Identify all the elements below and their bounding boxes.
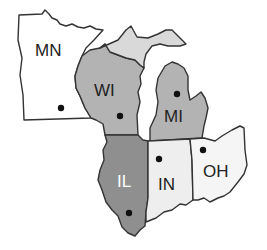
label-in: IN — [158, 175, 175, 194]
capital-dot-oh — [200, 147, 206, 153]
capital-dot-mn — [58, 105, 64, 111]
label-mi: MI — [164, 107, 183, 126]
capital-dot-in — [156, 156, 162, 162]
label-mn: MN — [35, 41, 61, 60]
midwest-map: MN WI MI IL IN OH — [0, 0, 267, 250]
capital-dot-mi — [174, 91, 180, 97]
label-wi: WI — [94, 81, 115, 100]
capital-dot-wi — [117, 113, 123, 119]
label-il: IL — [117, 172, 131, 191]
label-oh: OH — [203, 162, 229, 181]
state-mi[interactable] — [150, 62, 208, 141]
capital-dot-il — [126, 210, 132, 216]
